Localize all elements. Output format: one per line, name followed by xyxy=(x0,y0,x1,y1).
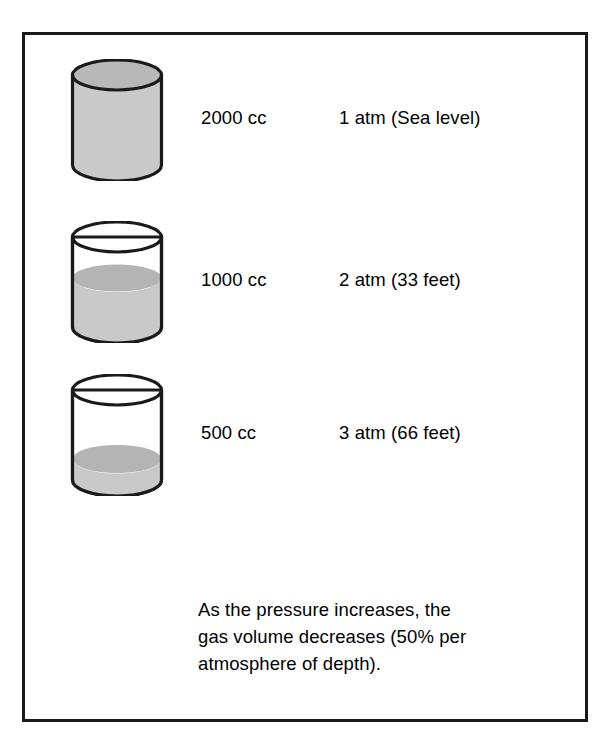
volume-label: 500 cc xyxy=(201,422,256,444)
cylinder-quarter xyxy=(69,374,165,496)
cylinder-top-ellipse xyxy=(73,60,162,90)
cylinder-gas-surface xyxy=(73,265,162,292)
cylinder-gas-surface xyxy=(73,445,162,473)
cylinder-full xyxy=(69,59,165,181)
cylinder-half xyxy=(69,221,165,343)
volume-label: 2000 cc xyxy=(201,107,267,129)
pressure-label: 3 atm (66 feet) xyxy=(339,422,461,444)
diagram-frame: 2000 cc 1 atm (Sea level) 1000 xyxy=(22,32,588,722)
caption-line-1: As the pressure increases, the xyxy=(198,596,528,623)
volume-label: 1000 cc xyxy=(201,269,267,291)
caption-line-3: atmosphere of depth). xyxy=(198,650,528,677)
pressure-label: 2 atm (33 feet) xyxy=(339,269,461,291)
caption-line-2: gas volume decreases (50% per xyxy=(198,623,528,650)
caption-block: As the pressure increases, the gas volum… xyxy=(198,596,528,677)
pressure-label: 1 atm (Sea level) xyxy=(339,107,481,129)
figure-root: 2000 cc 1 atm (Sea level) 1000 xyxy=(0,0,604,739)
